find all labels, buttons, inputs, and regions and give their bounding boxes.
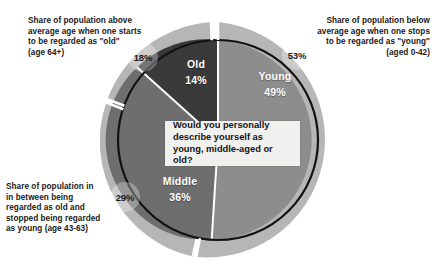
infographic-canvas: Share of population above average age wh… — [0, 0, 434, 274]
ring-badge-young: 53% — [282, 40, 312, 70]
ring-badge-old: 18% — [128, 42, 158, 72]
center-question-box: Would you personally describe yourself a… — [165, 121, 300, 166]
center-question-text: Would you personally describe yourself a… — [173, 120, 292, 166]
ring-badge-middle: 29% — [110, 182, 140, 212]
